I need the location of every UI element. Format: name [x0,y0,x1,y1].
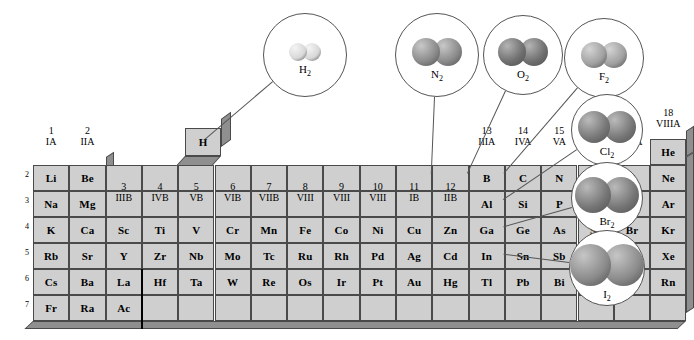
element-cell-ac[interactable]: Ac [106,295,142,321]
table-slab-bottom-face [24,321,686,329]
atom-sphere [412,38,440,66]
molecule-label-i2: I2 [570,288,644,303]
element-cell-empty [432,295,468,321]
group-header-roman: VIIB [251,192,287,203]
element-cell-hg[interactable]: Hg [432,269,468,295]
element-cell-fe[interactable]: Fe [287,217,323,243]
atom-sphere [578,111,610,143]
group-header-roman: IIB [432,192,468,203]
period-label-3: 3 [19,196,29,205]
element-cell-al[interactable]: Al [469,191,505,217]
element-cell-empty [323,295,359,321]
element-cell-la[interactable]: La [106,269,142,295]
element-cell-rh[interactable]: Rh [323,243,359,269]
element-cell-rn[interactable]: Rn [650,269,686,295]
element-cell-zn[interactable]: Zn [432,217,468,243]
element-cell-y[interactable]: Y [106,243,142,269]
table-slab-right-face-main [686,152,694,313]
molecule-callout-o2: O2 [483,15,563,95]
element-cell-cr[interactable]: Cr [215,217,251,243]
element-cell-ta[interactable]: Ta [178,269,214,295]
element-cell-li[interactable]: Li [33,165,69,191]
element-cell-tl[interactable]: Tl [469,269,505,295]
element-cell-ni[interactable]: Ni [360,217,396,243]
callout-leader-line-h2 [204,81,273,140]
element-cell-ir[interactable]: Ir [323,269,359,295]
element-cell-mo[interactable]: Mo [215,243,251,269]
group-header-roman: VIII [360,192,396,203]
element-cell-tc[interactable]: Tc [251,243,287,269]
group-header-5: 5VB [178,181,214,203]
element-cell-empty [469,295,505,321]
group-header-number: 10 [360,181,396,192]
group-header-roman: VIIIA [650,118,686,129]
element-cell-sc[interactable]: Sc [106,217,142,243]
molecule-label-cl2: Cl2 [572,145,642,160]
element-cell-pb[interactable]: Pb [505,269,541,295]
molecule-label-br2: Br2 [572,215,642,230]
element-cell-cu[interactable]: Cu [396,217,432,243]
element-cell-ba[interactable]: Ba [69,269,105,295]
group-header-10: 10VIII [360,181,396,203]
group-header-number: 18 [650,107,686,118]
element-cell-nb[interactable]: Nb [178,243,214,269]
element-cell-w[interactable]: W [215,269,251,295]
element-cell-sr[interactable]: Sr [69,243,105,269]
element-cell-v[interactable]: V [178,217,214,243]
lanthanide-divider-line [141,269,143,329]
group-header-number: 12 [432,181,468,192]
group-header-roman: VIB [215,192,251,203]
element-cell-kr[interactable]: Kr [650,217,686,243]
element-cell-k[interactable]: K [33,217,69,243]
group-header-roman: IVA [505,136,541,147]
element-cell-hf[interactable]: Hf [142,269,178,295]
element-cell-rb[interactable]: Rb [33,243,69,269]
element-cell-ru[interactable]: Ru [287,243,323,269]
element-cell-he[interactable]: He [650,139,686,165]
element-cell-pt[interactable]: Pt [360,269,396,295]
element-cell-in[interactable]: In [469,243,505,269]
element-cell-empty [650,295,686,321]
element-cell-re[interactable]: Re [251,269,287,295]
element-cell-fr[interactable]: Fr [33,295,69,321]
molecule-label-subscript: 2 [439,74,443,83]
group-header-roman: IVB [142,192,178,203]
element-cell-ra[interactable]: Ra [69,295,105,321]
element-cell-cs[interactable]: Cs [33,269,69,295]
element-cell-empty [178,295,214,321]
element-cell-be[interactable]: Be [69,165,105,191]
element-cell-ga[interactable]: Ga [469,217,505,243]
molecule-label-subscript: 2 [611,221,615,230]
molecule-model-o2 [484,38,562,66]
molecule-model-f2 [565,42,643,68]
group-header-18: 18VIIIA [650,107,686,129]
element-cell-ca[interactable]: Ca [69,217,105,243]
group-header-11: 11IB [396,181,432,203]
group-header-8: 8VIII [287,181,323,203]
element-cell-b[interactable]: B [469,165,505,191]
element-cell-na[interactable]: Na [33,191,69,217]
element-cell-co[interactable]: Co [323,217,359,243]
element-cell-ag[interactable]: Ag [396,243,432,269]
element-cell-ti[interactable]: Ti [142,217,178,243]
group-header-roman: IIIB [106,192,142,203]
molecule-model-h2 [264,43,346,61]
element-cell-mg[interactable]: Mg [69,191,105,217]
element-cell-mn[interactable]: Mn [251,217,287,243]
element-cell-zr[interactable]: Zr [142,243,178,269]
group-header-roman: IB [396,192,432,203]
element-cell-xe[interactable]: Xe [650,243,686,269]
hydrogen-cube-front-face: H [185,128,221,156]
atom-sphere [581,42,607,68]
atom-sphere [498,38,526,66]
element-cell-ne[interactable]: Ne [650,165,686,191]
molecule-label-symbol: H [299,63,307,75]
element-cell-pd[interactable]: Pd [360,243,396,269]
group-header-number: 9 [323,181,359,192]
element-cell-ar[interactable]: Ar [650,191,686,217]
element-cell-os[interactable]: Os [287,269,323,295]
element-cell-cd[interactable]: Cd [432,243,468,269]
group-header-roman: VB [178,192,214,203]
element-cell-au[interactable]: Au [396,269,432,295]
